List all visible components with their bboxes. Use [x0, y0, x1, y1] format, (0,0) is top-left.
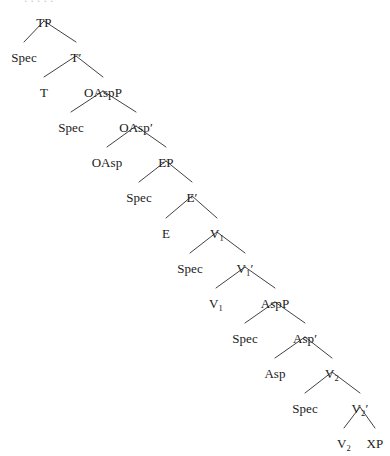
node-prime-mark: ′ — [314, 331, 317, 346]
node-prime-mark: ′ — [195, 190, 198, 205]
tree-node-ebar: E′ — [187, 191, 198, 204]
tree-node-v2bar: V2′ — [352, 402, 369, 415]
node-subscript: 2 — [347, 443, 351, 453]
tree-node-v1bar: V1′ — [237, 262, 254, 275]
node-prime-mark: ′ — [365, 401, 368, 416]
tree-node-tp: TP — [36, 16, 51, 29]
node-subscript: 1 — [246, 268, 250, 278]
tree-node-v1: V1 — [209, 297, 223, 310]
tree-node-e: E — [162, 227, 170, 240]
node-subscript: 2 — [335, 373, 339, 383]
syntax-tree-canvas — [0, 0, 390, 456]
tree-node-oaspbar: OAsp′ — [119, 121, 153, 134]
tree-node-spec4: Spec — [177, 262, 203, 275]
node-prime-mark: ′ — [150, 120, 153, 135]
tree-node-asp: Asp — [264, 367, 285, 380]
tree-node-spec2: Spec — [58, 121, 84, 134]
tree-node-aspbar: Asp′ — [293, 332, 317, 345]
node-prime-mark: ′ — [79, 50, 82, 65]
tree-node-oaspp: OAspP — [84, 86, 122, 99]
tree-node-spec1: Spec — [11, 51, 37, 64]
tree-node-spec5: Spec — [232, 332, 258, 345]
tree-node-oasp: OAsp — [92, 156, 123, 169]
node-prime-mark: ′ — [250, 261, 253, 276]
node-subscript: 1 — [219, 303, 223, 313]
node-subscript: 1 — [220, 233, 224, 243]
tree-node-aspp: AspP — [261, 297, 290, 310]
tree-node-v1p: V1 — [210, 227, 224, 240]
node-subscript: 2 — [361, 408, 365, 418]
tree-node-tbar: T′ — [71, 51, 82, 64]
tree-node-spec3: Spec — [126, 191, 152, 204]
tree-node-ep: EP — [158, 156, 173, 169]
tree-node-t: T — [40, 86, 48, 99]
tree-node-v2p: V2 — [325, 367, 339, 380]
tree-node-spec6: Spec — [292, 402, 318, 415]
tree-node-v2: V2 — [337, 437, 351, 450]
tree-edge-group — [24, 21, 375, 428]
tree-node-xp: XP — [367, 437, 384, 450]
